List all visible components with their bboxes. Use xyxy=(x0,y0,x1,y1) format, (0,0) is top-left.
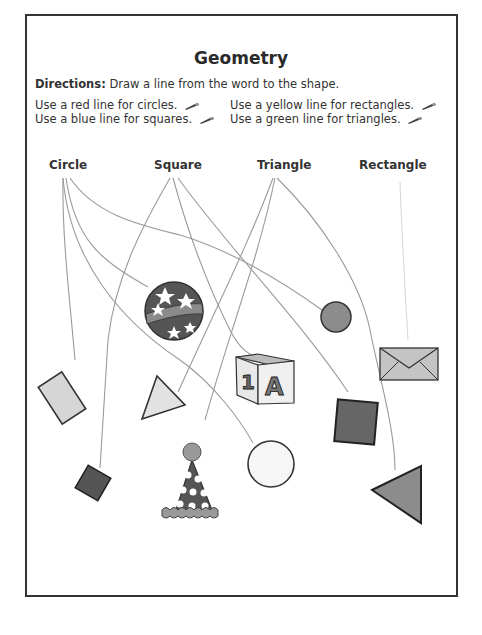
light-rectangle[interactable] xyxy=(38,372,85,424)
small-dark-square[interactable] xyxy=(75,465,111,501)
matching-artwork: 1 A xyxy=(0,0,482,635)
line-rectangle-envelope xyxy=(400,182,408,340)
alphabet-block[interactable]: 1 A xyxy=(236,354,294,404)
dark-square[interactable] xyxy=(334,399,378,444)
light-triangle[interactable] xyxy=(142,376,185,419)
party-hat[interactable] xyxy=(162,443,218,518)
line-circle-gray xyxy=(70,178,322,310)
block-letter-left: 1 xyxy=(241,370,255,394)
gray-circle[interactable] xyxy=(321,302,351,332)
line-circle-ball xyxy=(66,178,148,287)
block-letter-right: A xyxy=(265,373,284,401)
line-circle-down xyxy=(63,178,75,360)
striped-star-ball[interactable] xyxy=(145,282,203,340)
envelope[interactable] xyxy=(380,348,438,380)
gray-triangle[interactable] xyxy=(372,466,421,523)
white-circle[interactable] xyxy=(248,441,294,487)
